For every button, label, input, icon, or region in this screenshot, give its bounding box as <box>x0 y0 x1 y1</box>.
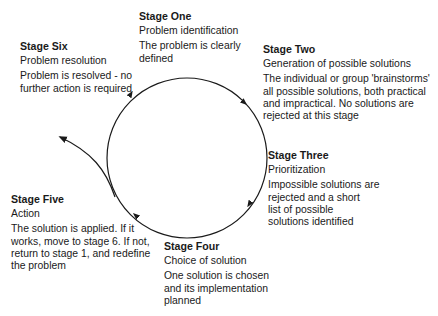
stage-one: Stage One Problem identification The pro… <box>139 10 241 65</box>
stage-title: Stage Six <box>20 40 132 52</box>
stage-subtitle: Choice of solution <box>164 255 269 267</box>
stage-subtitle: Action <box>11 208 150 220</box>
stage-description: The solution is applied. If it works, mo… <box>11 223 150 272</box>
stage-four: Stage Four Choice of solution One soluti… <box>164 240 269 307</box>
stage-title: Stage Two <box>263 43 430 55</box>
stage-two: Stage Two Generation of possible solutio… <box>263 43 430 122</box>
stage-title: Stage One <box>139 10 241 22</box>
stage-description: The individual or group 'brainstorms' al… <box>263 73 430 122</box>
stage-three: Stage Three Prioritization Impossible so… <box>268 149 379 228</box>
stage-six: Stage Six Problem resolution Problem is … <box>20 40 132 95</box>
stage-title: Stage Four <box>164 240 269 252</box>
stage-description: One solution is chosen and its implement… <box>164 270 269 307</box>
stage-five: Stage Five Action The solution is applie… <box>11 193 150 272</box>
stage-subtitle: Prioritization <box>268 164 379 176</box>
stage-subtitle: Generation of possible solutions <box>263 58 430 70</box>
stage-subtitle: Problem resolution <box>20 55 132 67</box>
stage-title: Stage Five <box>11 193 150 205</box>
stage-subtitle: Problem identification <box>139 25 241 37</box>
stage-description: Impossible solutions are rejected and a … <box>268 179 379 228</box>
arrow-stage-five-to-six <box>60 137 115 197</box>
stage-title: Stage Three <box>268 149 379 161</box>
stage-description: The problem is clearly defined <box>139 40 241 64</box>
stage-description: Problem is resolved - no further action … <box>20 70 132 94</box>
